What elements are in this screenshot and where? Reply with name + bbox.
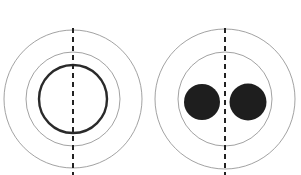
- left-diagram: [4, 28, 142, 175]
- diagram-canvas: [0, 0, 301, 175]
- right-left-dot: [184, 84, 220, 120]
- right-diagram: [155, 28, 295, 175]
- right-right-dot: [230, 84, 267, 121]
